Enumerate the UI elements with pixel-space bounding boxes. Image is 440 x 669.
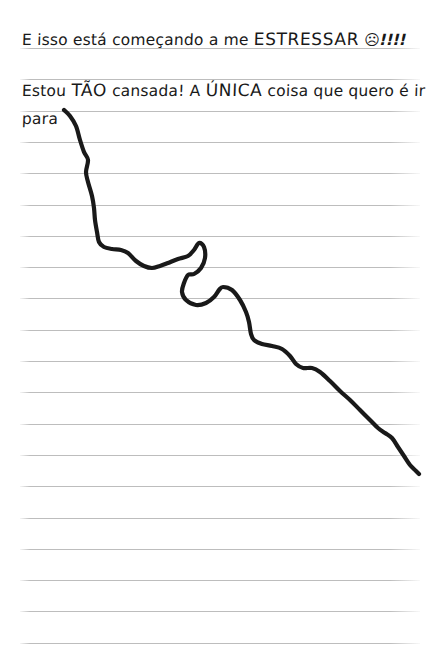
text-segment: coisa que quero é ir <box>262 82 425 100</box>
ruled-line <box>20 330 420 331</box>
text-segment: !!!! <box>380 31 407 49</box>
text-segment: Estou <box>22 82 72 100</box>
ruled-line <box>20 205 420 206</box>
text-segment: TÃO <box>71 80 107 100</box>
ruled-line <box>20 298 420 299</box>
ruled-line <box>20 236 420 237</box>
ruled-line <box>20 361 420 362</box>
text-segment: cansada! A <box>107 82 206 100</box>
ruled-line <box>20 580 420 581</box>
ruled-lines-layer <box>0 0 440 669</box>
text-segment: para <box>22 110 59 128</box>
ruled-line <box>20 643 420 644</box>
ruled-line <box>20 518 420 519</box>
hand-drawn-descending-curve <box>0 0 440 669</box>
text-segment: ÚNICA <box>205 80 262 100</box>
ruled-line <box>20 611 420 612</box>
journal-text-line-3: para <box>22 110 59 128</box>
ruled-line <box>20 455 420 456</box>
ruled-line <box>20 173 420 174</box>
curve-path <box>64 110 419 474</box>
text-segment: E isso está começando a me <box>22 31 254 49</box>
ruled-line <box>20 549 420 550</box>
notebook-page: E isso está começando a me ESTRESSAR ☹!!… <box>0 0 440 669</box>
ruled-line <box>20 142 420 143</box>
journal-text-line-2: Estou TÃO cansada! A ÚNICA coisa que que… <box>22 80 426 100</box>
ruled-line <box>20 392 420 393</box>
ruled-line <box>20 267 420 268</box>
text-segment: ESTRESSAR <box>253 29 359 49</box>
text-segment: ☹ <box>364 31 380 49</box>
ruled-line <box>20 424 420 425</box>
journal-text-line-1: E isso está começando a me ESTRESSAR ☹!!… <box>22 29 407 49</box>
ruled-line <box>20 111 420 112</box>
ruled-line <box>20 486 420 487</box>
